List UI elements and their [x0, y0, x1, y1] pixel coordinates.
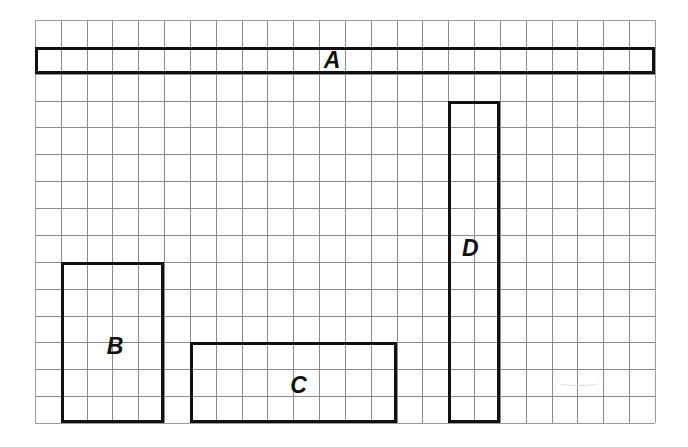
grid-line-vertical	[603, 20, 604, 423]
grid-line-vertical	[552, 20, 553, 423]
grid-line-horizontal	[35, 181, 655, 182]
grid-line-vertical	[422, 20, 423, 423]
grid-line-vertical	[655, 20, 656, 423]
grid-line-vertical	[164, 20, 165, 423]
grid-line-vertical	[397, 20, 398, 423]
grid-line-horizontal	[35, 235, 655, 236]
grid-line-vertical	[629, 20, 630, 423]
grid-line-horizontal	[35, 127, 655, 128]
shape-label-c: C	[290, 374, 307, 397]
shape-rectangle-a	[35, 47, 655, 74]
grid-line-vertical	[577, 20, 578, 423]
shape-label-d: D	[462, 237, 479, 260]
grid-line-horizontal	[35, 74, 655, 75]
shape-rectangle-d	[448, 101, 500, 423]
grid-line-horizontal	[35, 20, 655, 21]
grid-line-vertical	[526, 20, 527, 423]
grid-line-horizontal	[35, 101, 655, 102]
grid-line-horizontal	[35, 208, 655, 209]
grid-line-vertical	[500, 20, 501, 423]
grid-line-vertical	[35, 20, 36, 423]
figure-canvas: ABCD	[0, 0, 688, 447]
grid-line-horizontal	[35, 154, 655, 155]
grid-line-horizontal	[35, 423, 655, 424]
shape-label-a: A	[324, 49, 341, 72]
shape-label-b: B	[107, 335, 124, 358]
